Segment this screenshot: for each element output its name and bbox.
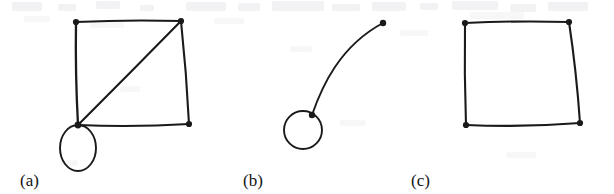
vertex-a-top-left [73,19,79,25]
vertex-c-bottom-left [463,122,469,128]
figure-container: (a) (b) (c) [0,0,614,194]
vertex-b-end-vertex [380,20,386,26]
loop-a-bottom-left [60,125,96,171]
edge-a-left [76,22,78,125]
vertex-c-bottom-right [577,120,583,126]
edge-a-bottom [78,124,189,126]
edge-c-left [465,23,466,125]
panel-b-vertices [309,20,386,118]
panel-label-c: (c) [411,172,430,189]
panel-c-vertices [462,19,583,128]
vertex-a-bottom-left [75,122,82,129]
vertex-a-bottom-right [186,121,192,127]
edge-a-top [76,20,181,22]
panel-b-graph [284,23,383,149]
panel-label-a: (a) [20,172,39,189]
loop-b-vertex [284,111,322,149]
edge-a-right [181,21,189,124]
panel-c-graph [465,21,580,125]
vertex-a-top-right [178,18,184,24]
panel-label-b: (b) [243,172,263,189]
edge-c-bottom [466,123,580,126]
vertex-b-loop-vertex [309,112,315,118]
edge-a-diagonal [78,21,181,125]
vertex-c-top-right [566,19,572,25]
edge-b-curved [312,23,383,115]
edge-c-right [569,22,580,123]
graph-figure-svg [0,0,614,194]
panel-a-graph [60,20,189,171]
vertex-c-top-left [462,20,468,26]
edge-c-top [465,21,569,23]
